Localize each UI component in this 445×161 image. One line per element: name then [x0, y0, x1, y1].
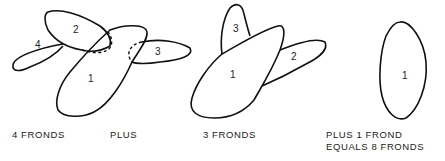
caption-plus: PLUS: [110, 129, 137, 141]
caption-equals-8-fronds: EQUALS 8 FRONDS: [326, 141, 424, 153]
frond-label-2: 2: [73, 24, 79, 35]
caption-plus-1-frond: PLUS 1 FROND: [326, 129, 402, 141]
frond-2: [262, 40, 326, 86]
caption-3-fronds: 3 FRONDS: [203, 129, 256, 141]
frond-label-1: 1: [402, 70, 408, 81]
frond-1: [57, 26, 147, 117]
frond-3: [132, 40, 191, 63]
frond-1: [191, 26, 284, 118]
caption-4-fronds: 4 FRONDS: [12, 129, 65, 141]
group-4-fronds: 2 4 3 1: [13, 11, 191, 117]
frond-label-1: 1: [88, 73, 94, 84]
frond-label-3: 3: [155, 46, 161, 57]
frond-label-2: 2: [291, 51, 297, 62]
group-3-fronds: 3 2 1: [191, 5, 326, 118]
frond-3-hidden-edge: [129, 42, 142, 62]
frond-label-4: 4: [35, 39, 41, 50]
frond-label-1: 1: [230, 69, 236, 80]
group-1-frond: 1: [380, 22, 426, 119]
frond-label-3: 3: [233, 23, 239, 34]
